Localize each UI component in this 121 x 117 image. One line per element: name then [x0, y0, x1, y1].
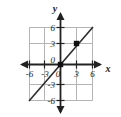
coordinate-plane-svg: -6 -3 0 3 6 6 3 0 -3 -6 x y: [0, 0, 121, 117]
coordinate-plane-figure: -6 -3 0 3 6 6 3 0 -3 -6 x y: [0, 0, 121, 117]
tick-label-y-pos6: 6: [51, 23, 56, 33]
x-axis-label: x: [105, 63, 111, 74]
y-axis-arrow-down-icon: [57, 106, 65, 114]
tick-label-x-neg6: -6: [26, 69, 34, 79]
tick-label-x-neg3: -3: [41, 69, 49, 79]
x-axis-arrow-left-icon: [20, 61, 28, 69]
x-axis-arrow-right-icon: [94, 61, 102, 69]
tick-label-x-pos3: 3: [73, 69, 79, 79]
y-axis-arrow-up-icon: [57, 12, 65, 20]
tick-label-y-neg6: -6: [48, 96, 56, 106]
tick-label-x-pos6: 6: [90, 69, 95, 79]
point-marker-3-3: [74, 41, 79, 46]
y-axis-label: y: [52, 3, 58, 14]
tick-label-y-pos3: 3: [50, 39, 56, 49]
tick-label-x-origin: 0: [56, 69, 61, 79]
point-marker-origin: [58, 62, 63, 67]
tick-label-y-origin: 0: [51, 55, 56, 65]
tick-label-y-neg3: -3: [48, 80, 56, 90]
